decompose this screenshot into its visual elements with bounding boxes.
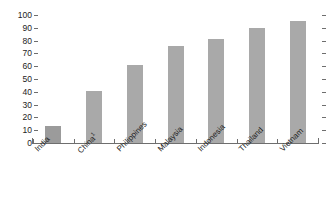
y-axis-tick-label: 60	[0, 61, 32, 71]
y-axis-tick-label: 0	[0, 138, 32, 148]
y-axis-tick-label: 70	[0, 48, 32, 58]
y-axis-tick-label: 30	[0, 100, 32, 110]
x-axis-tick-mark	[318, 139, 319, 143]
y-axis-tick-mark-right	[322, 92, 326, 93]
x-axis-tick-mark	[196, 139, 197, 143]
y-axis-tick-mark-right	[322, 143, 326, 144]
y-axis-tick-mark-right	[322, 79, 326, 80]
x-axis-tick-mark	[114, 139, 115, 143]
y-axis-tick-mark-right	[322, 130, 326, 131]
y-axis-tick-mark-right	[322, 15, 326, 16]
y-axis-tick-mark-right	[322, 53, 326, 54]
y-axis-tick-label: 10	[0, 125, 32, 135]
x-axis-tick-mark	[33, 139, 34, 143]
y-axis-tick-mark-right	[322, 66, 326, 67]
y-axis-tick-label: 100	[0, 10, 32, 20]
plot-area	[33, 15, 318, 143]
y-axis-tick-mark-right	[322, 105, 326, 106]
y-axis-tick-mark-right	[322, 41, 326, 42]
bar-chart: 0102030405060708090100 IndiaChina1Philip…	[0, 0, 331, 197]
y-axis-tick-mark-right	[322, 117, 326, 118]
y-axis-tick-label: 40	[0, 87, 32, 97]
y-axis-tick-mark-right	[322, 28, 326, 29]
y-axis-tick-label: 90	[0, 23, 32, 33]
y-axis-tick-label: 80	[0, 36, 32, 46]
x-axis-tick-mark	[237, 139, 238, 143]
x-axis-spine	[32, 143, 319, 144]
y-axis-tick-label: 20	[0, 112, 32, 122]
x-axis-tick-mark	[74, 139, 75, 143]
x-axis-tick-mark	[155, 139, 156, 143]
y-axis-tick-label: 50	[0, 74, 32, 84]
bar	[290, 21, 306, 143]
x-axis-tick-mark	[277, 139, 278, 143]
chart-title	[0, 0, 331, 1]
